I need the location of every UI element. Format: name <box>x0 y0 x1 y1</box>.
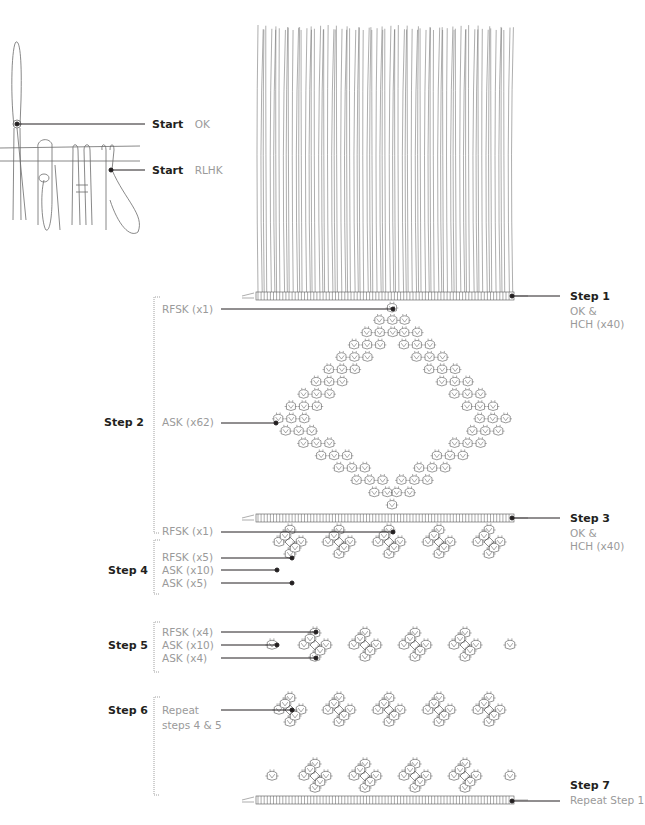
hanging-cords <box>257 25 513 292</box>
step1-label: Step 1 <box>570 290 610 303</box>
step2-callout-rfsk-bottom: RFSK (x1) <box>162 525 213 538</box>
step4-callout-rfsk: RFSK (x5) <box>162 551 213 564</box>
step4-callout-ask10: ASK (x10) <box>162 564 214 577</box>
knot-rlhk-label: RLHK <box>195 164 223 176</box>
step3-label: Step 3 <box>570 512 610 525</box>
step3-note-line1: OK & <box>570 527 597 541</box>
step5-callout-rfsk: RFSK (x4) <box>162 626 213 639</box>
start-rlhk-callout: Start RLHK <box>152 164 223 177</box>
step6-note-line1: Repeat <box>162 704 199 717</box>
step5-callout-ask4: ASK (x4) <box>162 652 207 665</box>
start-label: Start <box>152 164 183 177</box>
step2-callout-ask: ASK (x62) <box>162 416 214 429</box>
step2-label: Step 2 <box>104 416 144 429</box>
step6-label: Step 6 <box>108 704 148 717</box>
step2-callout-rfsk-top: RFSK (x1) <box>162 303 213 316</box>
dowel-illustration <box>0 42 140 234</box>
start-label: Start <box>152 118 183 131</box>
step-brackets <box>154 297 160 795</box>
start-ok-callout: Start OK <box>152 118 210 131</box>
square-knot-diamond <box>272 302 512 509</box>
step4-callout-ask5: ASK (x5) <box>162 577 207 590</box>
step7-label: Step 7 <box>570 779 610 792</box>
pattern-diagram <box>0 0 645 825</box>
knot-ok-label: OK <box>195 118 210 130</box>
step5-callout-ask10: ASK (x10) <box>162 639 214 652</box>
step1-note-line1: OK & <box>570 305 597 319</box>
step6-note-line2: steps 4 & 5 <box>162 719 222 732</box>
step3-note-line2: HCH (x40) <box>570 540 624 554</box>
step7-note: Repeat Step 1 <box>570 794 644 808</box>
step1-note-line2: HCH (x40) <box>570 318 624 332</box>
step5-label: Step 5 <box>108 639 148 652</box>
step4-label: Step 4 <box>108 564 148 577</box>
half-hitch-rows <box>242 292 528 804</box>
